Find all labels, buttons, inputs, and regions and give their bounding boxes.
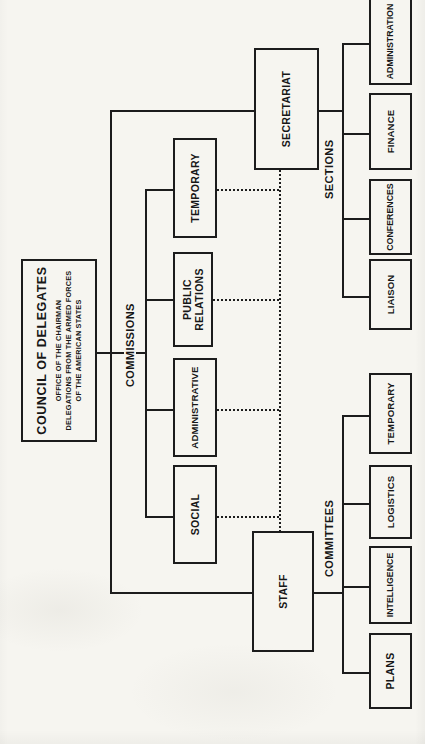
commissions-group-label: COMMISSIONS [124,300,136,390]
connector-stub-public-relations [145,299,174,301]
committee-label-plans: PLANS [384,652,396,689]
committees-group-label: COMMITTEES [323,497,335,580]
connector-commissions-bar [145,189,147,517]
dashed-administrative-link [213,409,279,411]
connector-sections-bar [342,43,344,298]
connector-committees-bar [342,415,344,674]
commission-label-temporary: TEMPORARY [189,153,201,222]
committee-label-intelligence: INTELLIGENCE [385,553,395,618]
connector-stub-intelligence [342,586,370,588]
commission-label-social: SOCIAL [189,494,201,535]
committee-box-temporary: TEMPORARY [369,373,412,454]
committee-box-plans: PLANS [369,633,412,709]
dashed-social-link [213,516,279,518]
connector-stub-plans [342,672,370,674]
section-box-conferences: CONFERENCES [369,179,412,255]
committee-box-logistics: LOGISTICS [369,465,412,539]
connector-stub-temporary-committee [342,415,370,417]
commission-label-administrative: ADMINISTRATIVE [189,366,200,448]
secretariat-box: SECRETARIAT [254,48,319,170]
connector-staff-drop [110,592,252,594]
commission-label-public-relations: PUBLIC RELATIONS [181,268,205,331]
connector-stub-finance [342,133,370,135]
council-of-delegates-box: COUNCIL OF DELEGATES OFFICE OF THE CHAIR… [21,259,97,442]
committee-label-temporary: TEMPORARY [385,383,396,445]
council-subtitle-line1: OFFICE OF THE CHAIRMAN [54,300,63,402]
connector-secretariat-drop [110,110,254,112]
committee-label-logistics: LOGISTICS [385,476,396,529]
org-chart: COUNCIL OF DELEGATES OFFICE OF THE CHAIR… [0,0,425,744]
scanned-org-chart-page: COUNCIL OF DELEGATES OFFICE OF THE CHAIR… [0,0,425,744]
connector-stub-administration [342,43,370,45]
connector-secretariat-sections-drop [315,110,344,112]
connector-stub-logistics [342,503,370,505]
connector-stub-social [145,516,174,518]
commission-box-temporary: TEMPORARY [173,138,217,238]
section-label-liaison: LIAISON [385,275,396,315]
connector-stub-temporary-commission [145,189,174,191]
commission-box-social: SOCIAL [173,465,217,564]
section-label-conferences: CONFERENCES [385,183,395,250]
council-box-content: COUNCIL OF DELEGATES OFFICE OF THE CHAIR… [35,266,84,435]
sections-group-label: SECTIONS [323,137,335,202]
committee-box-intelligence: INTELLIGENCE [369,546,412,624]
section-box-finance: FINANCE [369,93,412,170]
connector-stub-conferences [342,218,370,220]
section-label-finance: FINANCE [385,110,396,153]
connector-staff-committees-drop [310,592,344,594]
commission-box-public-relations: PUBLIC RELATIONS [173,252,213,347]
staff-label: STAFF [277,574,289,609]
council-subtitle-line2: DELEGATIONS FROM THE ARMED FORCES [64,271,73,431]
council-title: COUNCIL OF DELEGATES [35,266,49,435]
connector-stub-liaison [342,296,370,298]
secretariat-label: SECRETARIAT [280,71,292,147]
connector-stub-administrative [145,409,174,411]
staff-box: STAFF [252,531,314,652]
council-subtitle-line3: OF THE AMERICAN STATES [74,300,83,402]
section-box-administration: ADMINISTRATION [369,0,412,85]
section-box-liaison: LIAISON [369,259,412,330]
section-label-administration: ADMINISTRATION [385,4,395,80]
dashed-staff-secretariat-link [279,170,281,535]
commission-box-administrative: ADMINISTRATIVE [173,358,217,457]
dashed-temporary-link [213,189,279,191]
dashed-public-relations-link [213,299,279,301]
connector-council-drop [93,352,147,354]
